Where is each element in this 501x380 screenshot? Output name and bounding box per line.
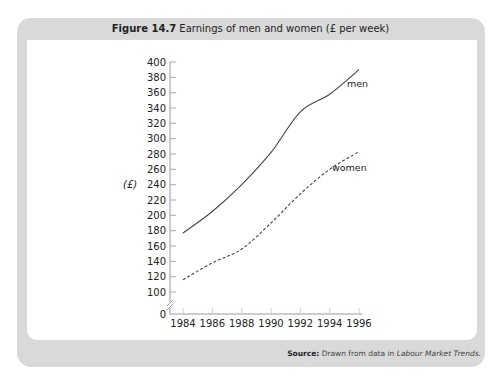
y-tick-label: 120 [147,271,166,282]
y-tick-label: 340 [147,103,166,114]
y-tick-label: 380 [147,72,166,83]
x-tick-label: 1996 [346,318,371,329]
y-tick-label: 220 [147,195,166,206]
y-tick-label: 360 [147,87,166,98]
y-tick-label: 240 [147,179,166,190]
y-tick-label: 300 [147,133,166,144]
x-tick-label: 1986 [200,318,225,329]
y-tick-label: 280 [147,149,166,160]
series-label-men: men [347,78,368,89]
y-tick-label: 180 [147,225,166,236]
y-tick-label: 100 [147,287,166,298]
x-tick-label: 1984 [170,318,195,329]
series-line-men [183,70,359,233]
x-tick-label: 1992 [288,318,313,329]
source-text: Drawn from data in [322,349,395,358]
y-tick-label: 260 [147,164,166,175]
x-tick-label: 1994 [317,318,342,329]
y-axis-label: (£) [123,179,137,190]
source-label: Source: [287,349,319,358]
source-publication: Labour Market Trends. [397,349,481,358]
y-tick-label: 400 [147,57,166,68]
y-tick-label: 200 [147,210,166,221]
y-tick-label: 160 [147,241,166,252]
y-tick-label: 0 [160,309,166,320]
line-chart: 0100120140160180200220240260280300320340… [0,0,501,380]
x-tick-label: 1990 [258,318,283,329]
series-label-women: women [332,162,367,173]
y-tick-label: 140 [147,256,166,267]
source-note: Source: Drawn from data in Labour Market… [287,349,481,358]
y-tick-label: 320 [147,118,166,129]
x-tick-label: 1988 [229,318,254,329]
